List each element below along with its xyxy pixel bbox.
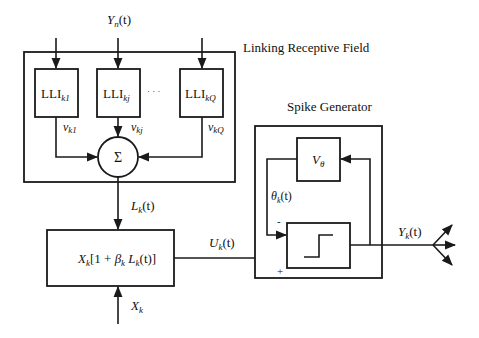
output-label: Yk(t) bbox=[398, 224, 422, 241]
spike-generator-title: Spike Generator bbox=[287, 99, 373, 114]
threshold-signal-label: θk(t) bbox=[271, 189, 292, 205]
lli-unit-kj: LLIkj bbox=[97, 69, 140, 117]
linking-output-label: Lk(t) bbox=[130, 198, 155, 215]
summation-symbol: Σ bbox=[114, 150, 122, 165]
feeding-input-label: Xk bbox=[130, 298, 144, 315]
internal-activity-label: Uk(t) bbox=[209, 235, 235, 252]
fanout-arrow-down bbox=[433, 245, 452, 265]
modulation-block: Xk[1 + βk Lk(t)] bbox=[47, 230, 174, 286]
receptive-field-title: Linking Receptive Field bbox=[243, 40, 370, 55]
spike-generator: Spike Generator Vθ θk(t) - + bbox=[255, 99, 382, 278]
input-label-yn: Yn(t) bbox=[107, 12, 131, 29]
ellipsis: · · · bbox=[147, 86, 161, 96]
plus-sign: + bbox=[277, 265, 283, 277]
lli-unit-k1: LLIk1 bbox=[35, 69, 78, 117]
fanout-arrow-up bbox=[433, 225, 452, 245]
output-fanout bbox=[433, 225, 455, 265]
lli-unit-kq: LLIkQ bbox=[180, 69, 223, 117]
pcnn-neuron-diagram: Linking Receptive Field Yn(t) LLIk1 LLIk… bbox=[0, 0, 479, 338]
minus-sign: - bbox=[277, 215, 281, 227]
